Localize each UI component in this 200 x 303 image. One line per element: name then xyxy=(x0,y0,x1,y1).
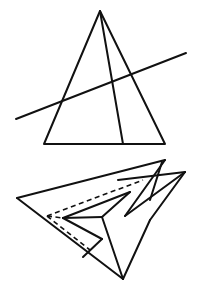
bottom-edge-solid xyxy=(63,217,102,218)
bottom-edge-solid xyxy=(150,172,185,220)
top-cevian xyxy=(100,11,123,144)
top-figure xyxy=(16,11,186,144)
bottom-edge-solid xyxy=(102,217,123,279)
bottom-edge-solid xyxy=(83,239,102,257)
bottom-edge-solid xyxy=(17,198,123,279)
bottom-edge-solid xyxy=(63,192,130,218)
bottom-edge-solid xyxy=(123,220,150,279)
top-triangle xyxy=(44,11,165,144)
bottom-figure xyxy=(17,160,185,279)
bottom-edge-solid xyxy=(63,218,102,239)
geometry-diagram xyxy=(0,0,200,303)
top-transversal xyxy=(16,53,186,119)
